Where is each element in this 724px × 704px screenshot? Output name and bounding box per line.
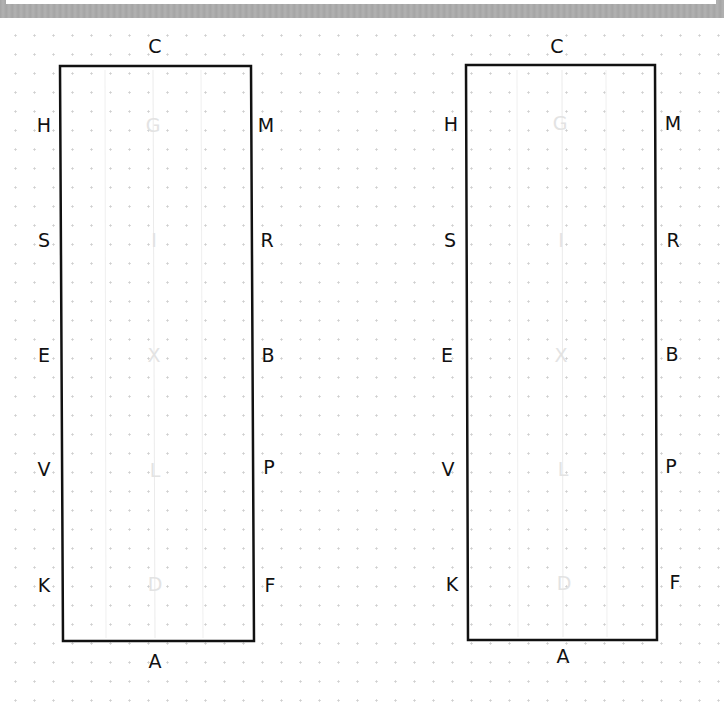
marker-right-1: M [258,116,274,135]
marker-center-4: L [150,461,161,480]
marker-left-5: K [38,576,50,595]
arena-left: C A H S E V K M R B P F G I X L D [0,0,724,704]
arena-right-outline [0,0,724,704]
marker-left-3: E [38,346,50,365]
marker-center-1: G [146,116,161,135]
marker-left-1: H [37,116,51,135]
marker-right-4: P [665,457,676,476]
marker-top: C [148,37,161,56]
marker-bottom: A [149,652,162,671]
marker-center-4: L [558,460,569,479]
marker-right-4: P [263,458,274,477]
marker-right-5: F [265,576,276,595]
marker-top: C [550,37,563,56]
arena-left-outline [0,0,724,704]
arena-right: C A H S E V K M R B P F G I X L D [0,0,724,704]
marker-right-2: R [666,231,679,250]
top-frame-inner [6,0,716,4]
marker-left-3: E [441,346,453,365]
marker-right-2: R [260,231,273,250]
marker-right-3: B [261,346,274,365]
marker-center-2: I [558,231,564,250]
marker-left-4: V [38,460,51,479]
marker-center-3: X [147,346,160,365]
marker-center-1: G [553,114,568,133]
marker-left-2: S [444,231,456,250]
marker-left-2: S [38,231,50,250]
marker-bottom: A [557,647,570,666]
marker-center-5: D [148,575,163,594]
marker-left-4: V [442,460,455,479]
marker-center-2: I [151,231,157,250]
marker-center-5: D [557,574,572,593]
marker-left-1: H [444,115,458,134]
marker-right-1: M [665,114,681,133]
marker-left-5: K [446,575,458,594]
marker-right-3: B [665,345,678,364]
marker-right-5: F [670,573,681,592]
top-frame [0,0,724,18]
marker-center-3: X [554,346,567,365]
